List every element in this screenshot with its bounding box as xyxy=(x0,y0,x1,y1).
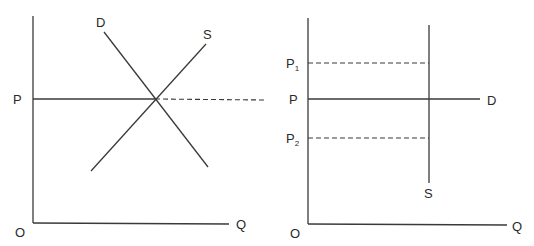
left-price-label: P xyxy=(13,92,22,107)
left-supply-label: S xyxy=(203,27,212,42)
right-q-label: Q xyxy=(512,219,522,234)
right-x-axis xyxy=(308,224,507,225)
left-x-axis xyxy=(33,223,229,224)
right-price-label: P xyxy=(289,92,298,107)
left-q-label: Q xyxy=(236,217,246,232)
left-origin-label: O xyxy=(15,225,25,240)
left-market-diagram: O Q P D S xyxy=(13,15,267,240)
price-connector-dashed xyxy=(155,99,267,100)
diagram-canvas: O Q P D S O Q P1 P D P2 S xyxy=(0,0,534,246)
left-supply-curve xyxy=(91,44,206,171)
right-market-diagram: O Q P1 P D P2 S xyxy=(286,18,522,241)
right-supply-label: S xyxy=(424,186,433,201)
right-demand-label: D xyxy=(487,93,496,108)
right-price-high-label: P1 xyxy=(286,56,300,73)
right-price-low-label: P2 xyxy=(286,131,300,148)
right-origin-label: O xyxy=(290,226,300,241)
left-demand-label: D xyxy=(96,15,105,30)
